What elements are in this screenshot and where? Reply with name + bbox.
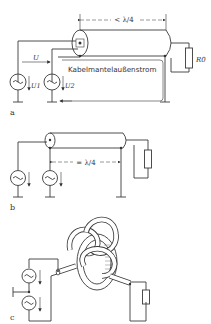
panel-a: < λ/4 U Kabelmantelaußenstrom <box>10 14 206 117</box>
length-label-b: = λ/4 <box>76 159 96 167</box>
sheath-current-loop: Kabelmantelaußenstrom <box>60 60 163 101</box>
voltage-label-u1: U1 <box>31 82 41 90</box>
panel-label-c: c <box>10 313 15 322</box>
panel-label-a: a <box>10 108 15 117</box>
ac-source-1-c <box>22 269 40 284</box>
ac-source-1-a: U1 <box>10 74 41 102</box>
load-label: R0 <box>195 56 206 64</box>
coax-diagram: < λ/4 U Kabelmantelaußenstrom <box>0 0 211 324</box>
coiled-coax-choke <box>56 220 131 291</box>
load-resistor-c <box>130 282 150 321</box>
length-label-a: < λ/4 <box>114 16 134 24</box>
panel-label-b: b <box>10 203 15 212</box>
panel-c: c <box>10 220 150 323</box>
voltage-label-u2: U2 <box>65 82 75 90</box>
panel-b: = λ/4 b <box>10 133 152 212</box>
ac-source-2-c <box>22 296 40 311</box>
load-resistor-b <box>126 140 152 178</box>
ac-source-1-b <box>11 171 30 198</box>
load-resistor-a: R0 <box>171 43 206 72</box>
ac-source-2-b <box>43 171 62 198</box>
sheath-current-label: Kabelmantelaußenstrom <box>68 65 156 74</box>
coax-cable-a <box>72 30 171 57</box>
coax-cable-b <box>45 133 126 149</box>
ac-source-2-a: U2 <box>44 74 75 102</box>
voltage-label-u: U <box>33 54 40 62</box>
